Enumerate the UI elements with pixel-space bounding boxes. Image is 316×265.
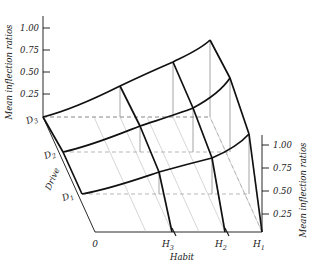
drive-axis-title: Drive <box>43 166 62 192</box>
depth-gridline-mid-b <box>147 117 199 232</box>
right-tick-label-050: 0.50 <box>273 186 293 196</box>
surface-ridge-h1 <box>210 40 249 134</box>
drive-label-d2: D2 <box>42 148 58 164</box>
drive-label-d1-sub: 1 <box>69 194 76 203</box>
left-tick-label-050: 0.50 <box>20 67 40 77</box>
drive-label-d3: D3 <box>24 113 40 129</box>
drive-label-d3-sub: 3 <box>33 117 40 126</box>
skirt-h2 <box>212 158 225 232</box>
habit-label-h2: H2 <box>214 239 227 252</box>
surface-curve-d1 <box>82 134 249 194</box>
right-tick-label-100: 1.00 <box>273 140 293 150</box>
left-tick-label-100: 1.00 <box>20 23 40 33</box>
habit-label-h2-sub: 2 <box>222 244 227 252</box>
habit-label-h1-base: H <box>252 239 261 249</box>
depth-gridline-h3 <box>120 117 172 232</box>
habit-origin-label: 0 <box>92 239 98 249</box>
depth-gridline-h2 <box>173 117 225 232</box>
left-axis-title: Mean inflection ratios <box>4 24 14 120</box>
right-tick-label-075: 0.75 <box>273 163 292 173</box>
surface-curve-d3 <box>43 40 210 117</box>
drive-label-d2-sub: 2 <box>50 152 58 161</box>
habit-label-h3-sub: 3 <box>170 244 174 252</box>
surface-ridge-h3 <box>120 86 159 172</box>
habit-label-h1: H1 <box>252 239 265 252</box>
habit-label-h1-sub: 1 <box>261 244 265 252</box>
plot-canvas: 1.00 0.75 0.50 0.25 Mean inflection rati… <box>0 0 316 265</box>
habit-label-h3: H3 <box>161 239 174 252</box>
surface-plot-figure: 1.00 0.75 0.50 0.25 Mean inflection rati… <box>0 0 316 265</box>
habit-axis: 0 H3 H2 H1 Habit <box>92 228 265 262</box>
right-axis-title: Mean inflection ratios <box>298 142 308 238</box>
skirt-h3 <box>159 172 172 232</box>
drive-axis: D1 D2 D3 Drive <box>24 113 76 206</box>
surface-skirt <box>159 134 262 232</box>
drive-label-d1: D1 <box>60 190 76 206</box>
habit-label-h2-base: H <box>214 239 223 249</box>
left-tick-label-025: 0.25 <box>20 89 39 99</box>
left-value-axis: 1.00 0.75 0.50 0.25 Mean inflection rati… <box>4 16 50 120</box>
right-tick-label-025: 0.25 <box>273 209 292 219</box>
surface-ridge-h2 <box>173 62 212 158</box>
habit-axis-title: Habit <box>169 252 195 262</box>
habit-label-h3-base: H <box>161 239 170 249</box>
right-value-axis: 1.00 0.75 0.50 0.25 Mean inflection rati… <box>262 135 308 238</box>
left-tick-label-075: 0.75 <box>20 45 39 55</box>
